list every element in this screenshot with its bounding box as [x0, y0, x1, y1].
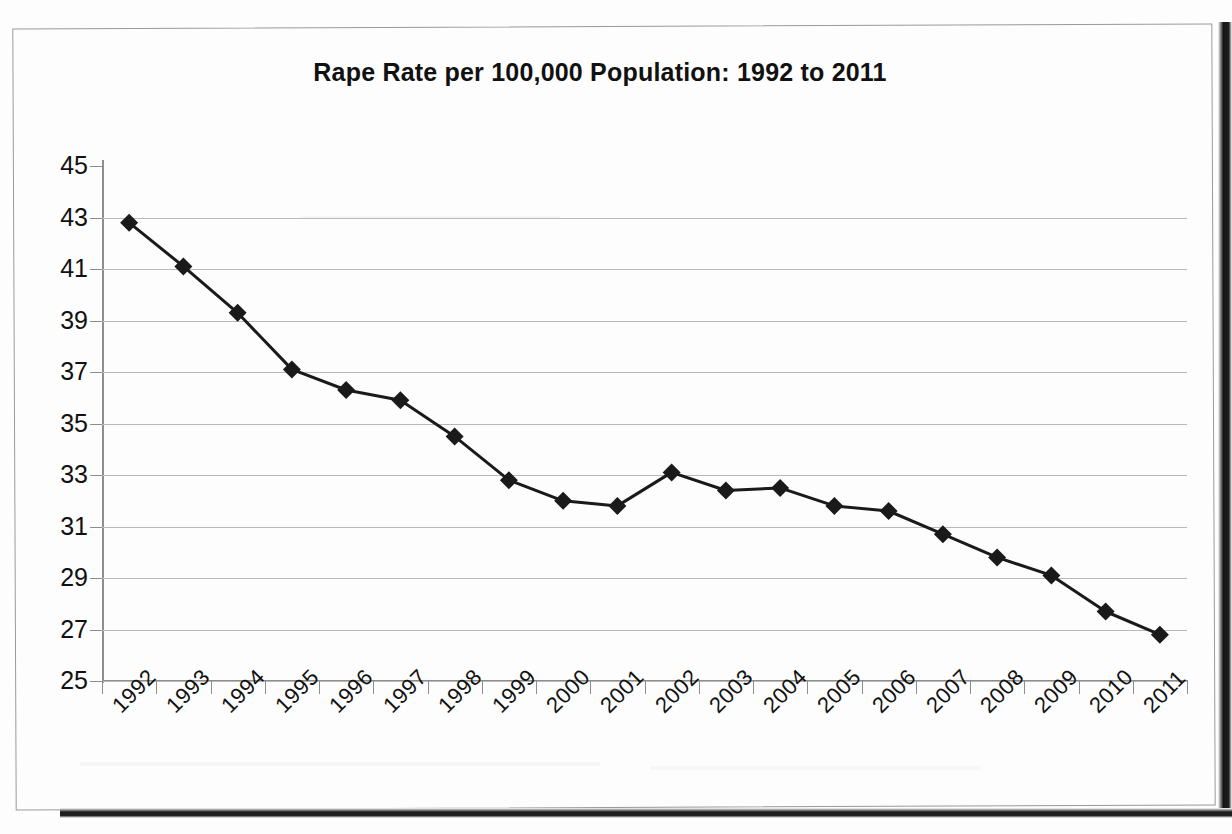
- y-axis-tick-label: 39: [28, 308, 88, 333]
- y-axis-tick-label: 33: [28, 462, 88, 487]
- y-axis-tick: [90, 424, 102, 425]
- gridline: [102, 475, 1187, 476]
- y-axis-tick-label: 43: [28, 205, 88, 230]
- x-axis-tick: [102, 681, 103, 694]
- y-axis-tick-label: 25: [28, 668, 88, 693]
- gridline: [102, 527, 1187, 528]
- y-axis-tick: [90, 527, 102, 528]
- y-axis-tick: [90, 218, 102, 219]
- y-axis-tick: [90, 681, 102, 682]
- gridline: [102, 218, 1187, 219]
- y-axis-tick-label: 35: [28, 411, 88, 436]
- y-axis-tick: [90, 475, 102, 476]
- y-axis-labels: 4543413937353331292725: [16, 0, 88, 834]
- y-axis-tick-label: 45: [28, 153, 88, 178]
- gridline: [102, 630, 1187, 631]
- gridline: [102, 424, 1187, 425]
- y-axis-tick: [90, 578, 102, 579]
- y-axis-tick-label: 37: [28, 359, 88, 384]
- plot-area: [102, 166, 1187, 681]
- y-axis-tick: [90, 269, 102, 270]
- y-axis-tick: [90, 630, 102, 631]
- y-axis-tick-label: 41: [28, 256, 88, 281]
- chart-title: Rape Rate per 100,000 Population: 1992 t…: [0, 58, 1200, 87]
- y-axis-tick-label: 29: [28, 565, 88, 590]
- y-axis-tick-label: 27: [28, 617, 88, 642]
- gridline: [102, 269, 1187, 270]
- gridline: [102, 321, 1187, 322]
- gridline: [102, 578, 1187, 579]
- y-axis-tick: [90, 321, 102, 322]
- gridline: [102, 372, 1187, 373]
- y-axis-tick: [90, 166, 102, 167]
- line-chart: Rape Rate per 100,000 Population: 1992 t…: [0, 0, 1232, 834]
- y-axis-tick: [90, 372, 102, 373]
- y-axis-tick-label: 31: [28, 514, 88, 539]
